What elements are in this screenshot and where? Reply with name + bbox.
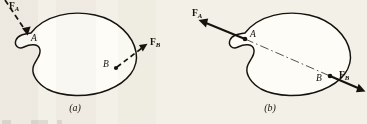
point-label-b-panel-a: B xyxy=(103,59,109,69)
caption-panel-b: (b) xyxy=(264,102,276,114)
panel-a: A B FA FB (a) xyxy=(5,0,161,114)
mechanics-figure: A B FA FB (a) xyxy=(0,0,367,124)
caption-panel-a: (a) xyxy=(69,102,81,114)
figure-container: A B FA FB (a) xyxy=(0,0,367,124)
force-a-line-panel-b xyxy=(206,23,245,39)
point-label-b-panel-b: B xyxy=(316,73,322,83)
point-label-a-panel-a: A xyxy=(30,33,37,43)
force-b-label-panel-b: FB xyxy=(339,70,350,81)
panel-b: A B FA FB (b) xyxy=(192,8,366,114)
force-b-label-panel-a: FB xyxy=(150,37,161,48)
point-dot-a-panel-b xyxy=(243,37,248,42)
force-a-label-panel-b: FA xyxy=(192,8,203,19)
force-b-arrowhead-panel-b xyxy=(356,84,366,92)
rigid-body-outline-b xyxy=(229,13,350,95)
point-label-a-panel-b: A xyxy=(249,29,256,39)
rigid-body-outline-a xyxy=(15,13,136,95)
force-a-label-panel-a: FA xyxy=(9,1,20,12)
force-a-arrowhead-panel-b xyxy=(199,19,209,28)
